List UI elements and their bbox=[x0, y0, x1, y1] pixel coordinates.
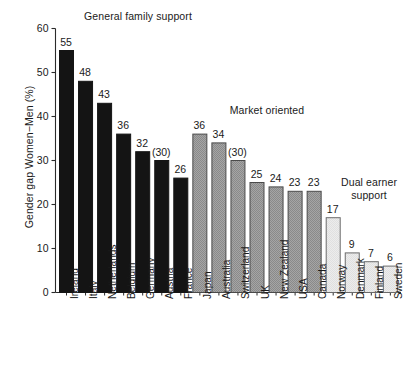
x-axis-label-australia: Australia bbox=[222, 259, 232, 298]
x-axis-label-germany: Germany bbox=[146, 257, 156, 298]
y-axis-tick-label: 50 bbox=[25, 67, 49, 78]
x-axis-label-netherlands: Netherlands bbox=[108, 244, 118, 298]
bar-japan bbox=[193, 134, 207, 292]
x-axis-label-sweden: Sweden bbox=[394, 262, 404, 298]
x-axis-label-denmark: Denmark bbox=[356, 258, 366, 299]
x-axis-label-usa: USA bbox=[299, 278, 309, 299]
bar-value-label: 6 bbox=[370, 252, 410, 263]
gender-gap-bar-chart: Gender gap Women−Men (%) 0102030405060 5… bbox=[0, 0, 420, 376]
bar-value-label: 55 bbox=[46, 37, 86, 48]
y-axis-tick-label: 0 bbox=[25, 287, 49, 298]
bar-value-label: (30) bbox=[141, 147, 181, 158]
x-axis-label-new-zealand: New Zealand bbox=[280, 239, 290, 298]
x-axis-label-austria: Austria bbox=[165, 267, 175, 298]
bar-uk bbox=[250, 183, 264, 293]
x-axis-label-japan: Japan bbox=[203, 271, 213, 299]
bar-ireland bbox=[60, 51, 74, 293]
y-axis-tick-label: 60 bbox=[25, 23, 49, 34]
x-axis-label-france: France bbox=[184, 267, 194, 298]
x-axis-label-norway: Norway bbox=[337, 264, 347, 298]
bar-value-label: (30) bbox=[217, 147, 257, 158]
x-axis-label-uk: UK bbox=[261, 285, 271, 299]
bar-italy bbox=[79, 81, 93, 292]
x-axis-label-italy: Italy bbox=[89, 280, 99, 299]
y-axis-tick-label: 40 bbox=[25, 111, 49, 122]
y-axis-tick-label: 30 bbox=[25, 155, 49, 166]
x-axis-label-finland: Finland bbox=[375, 265, 385, 298]
x-axis-label-canada: Canada bbox=[318, 263, 328, 298]
y-axis-tick-label: 10 bbox=[25, 243, 49, 254]
x-axis-label-switzerland: Switzerland bbox=[241, 246, 251, 298]
group-label-market-oriented: Market oriented bbox=[205, 104, 329, 117]
x-axis-label-belgium: Belgium bbox=[127, 262, 137, 298]
bar-value-label: 43 bbox=[84, 89, 124, 100]
group-label-dual-earner-support: Dual earner support bbox=[323, 176, 415, 201]
bar-value-label: 17 bbox=[313, 204, 353, 215]
x-axis-label-ireland: Ireland bbox=[70, 268, 80, 299]
bar-value-label: 34 bbox=[198, 129, 238, 140]
bar-value-label: 48 bbox=[65, 67, 105, 78]
y-axis-tick-label: 20 bbox=[25, 199, 49, 210]
group-label-general-family-support: General family support bbox=[63, 10, 213, 23]
bar-value-label: 26 bbox=[160, 164, 200, 175]
bar-value-label: 36 bbox=[103, 120, 143, 131]
